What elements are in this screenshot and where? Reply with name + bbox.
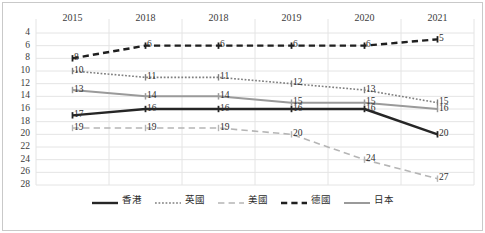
y-axis-tick-label: 12 [4,79,30,89]
data-point-label: 17 [74,110,84,120]
data-point-label: 27 [439,173,449,183]
legend-item[interactable]: 香港 [92,192,142,206]
y-axis-tick-label: 16 [4,104,30,114]
y-axis-tick-label: 26 [4,167,30,177]
y-axis-tick-label: 14 [4,91,30,101]
data-point-label: 12 [293,78,303,88]
data-point-label: 24 [366,154,376,164]
data-point-label: 13 [74,85,84,95]
data-point-label: 6 [147,40,152,50]
data-point-label: 15 [366,97,376,107]
data-point-label: 20 [439,129,449,139]
legend-label: 香港 [122,192,142,206]
x-axis-tick-label: 2019 [262,13,322,23]
legend-label: 德國 [311,192,331,206]
data-point-label: 16 [439,104,449,114]
data-point-label: 19 [147,123,157,133]
y-axis-tick-label: 18 [4,117,30,127]
data-point-label: 6 [366,40,371,50]
line-chart: 46810121416182022242628 2015201820182019… [0,0,485,233]
data-point-label: 5 [439,34,444,44]
y-axis-tick-label: 28 [4,180,30,190]
data-point-label: 20 [293,129,303,139]
data-point-label: 13 [366,85,376,95]
y-axis-tick-label: 4 [4,28,30,38]
data-point-label: 19 [220,123,230,133]
legend-item[interactable]: 日本 [344,192,394,206]
y-axis-tick-label: 24 [4,155,30,165]
x-axis-tick-label: 2020 [335,13,395,23]
data-point-label: 16 [220,104,230,114]
x-axis-tick-label: 2018 [189,13,249,23]
data-point-label: 19 [74,123,84,133]
data-point-label: 11 [147,72,156,82]
data-point-label: 6 [220,40,225,50]
x-axis-tick-label: 2018 [116,13,176,23]
legend-item[interactable]: 德國 [281,192,331,206]
data-point-label: 6 [293,40,298,50]
gridlines [36,19,474,185]
y-axis-tick-label: 6 [4,41,30,51]
data-point-label: 16 [147,104,157,114]
y-axis-tick-label: 20 [4,129,30,139]
x-axis-tick-label: 2015 [43,13,103,23]
legend-label: 日本 [374,192,394,206]
data-point-label: 10 [74,66,84,76]
x-axis-tick-label: 2021 [408,13,468,23]
data-point-label: 11 [220,72,229,82]
data-point-label: 15 [293,97,303,107]
data-point-label: 8 [74,53,79,63]
data-point-label: 14 [220,91,230,101]
legend-item[interactable]: 英國 [155,192,205,206]
legend-label: 美國 [248,192,268,206]
chart-legend: 香港英國美國德國日本 [0,192,485,206]
data-point-label: 14 [147,91,157,101]
legend-item[interactable]: 美國 [218,192,268,206]
y-axis-tick-label: 10 [4,66,30,76]
y-axis-tick-label: 22 [4,142,30,152]
y-axis-tick-label: 8 [4,53,30,63]
legend-label: 英國 [185,192,205,206]
